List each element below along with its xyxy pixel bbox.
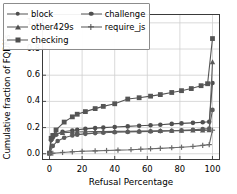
x-tick-label: 20 <box>77 164 88 174</box>
legend-item-other429s[interactable]: other429s <box>7 20 74 33</box>
figure: Cumulative fraction of FQDNs 0.00.20.40.… <box>0 0 237 194</box>
legend-item-checking[interactable]: checking <box>7 33 74 46</box>
series-other429s <box>47 59 215 155</box>
circle-marker-icon <box>7 9 28 18</box>
legend-label: require_js <box>105 22 146 32</box>
x-tick-label: 60 <box>142 164 153 174</box>
x-tick-label: 40 <box>109 164 120 174</box>
legend-item-challenge[interactable]: challenge <box>81 7 146 20</box>
y-tick-label: 0.6 <box>18 69 40 79</box>
legend-item-block[interactable]: block <box>7 7 74 20</box>
x-tick-label: 0 <box>47 164 52 174</box>
square-marker-icon <box>7 35 28 44</box>
x-axis-tick-labels: 020406080100 <box>0 164 237 178</box>
y-tick-label: 0.2 <box>18 122 40 132</box>
circle-marker-icon <box>81 9 102 18</box>
legend-label: challenge <box>105 9 146 19</box>
x-tick-label: 80 <box>175 164 186 174</box>
y-tick-label: 0.0 <box>18 148 40 158</box>
x-axis-label: Refusal Percentage <box>42 177 220 187</box>
x-tick-label: 100 <box>204 164 220 174</box>
legend-label: block <box>31 9 53 19</box>
legend: blockchallengeother429srequire_jscheckin… <box>3 3 150 50</box>
legend-label: checking <box>31 35 68 45</box>
legend-label: other429s <box>31 22 74 32</box>
triangle-marker-icon <box>7 22 28 31</box>
legend-item-require-js[interactable]: require_js <box>81 20 146 33</box>
plus-marker-icon <box>81 22 102 31</box>
y-tick-label: 0.4 <box>18 95 40 105</box>
